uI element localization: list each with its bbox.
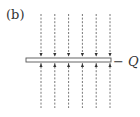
panel-label: (b): [6, 7, 24, 22]
field-diagram: (b) − Q: [0, 0, 140, 117]
arrow-down-icon: [81, 53, 84, 57]
arrow-down-icon: [108, 53, 111, 57]
charge-label: − Q: [113, 54, 139, 69]
arrow-up-icon: [53, 64, 56, 68]
arrow-down-icon: [67, 53, 70, 57]
arrow-up-icon: [39, 64, 42, 68]
arrow-up-icon: [81, 64, 84, 68]
arrow-up-icon: [67, 64, 70, 68]
arrow-down-icon: [53, 53, 56, 57]
charged-plate: [26, 58, 111, 62]
arrow-down-icon: [39, 53, 42, 57]
arrow-up-icon: [108, 64, 111, 68]
arrow-down-icon: [95, 53, 98, 57]
arrow-up-icon: [95, 64, 98, 68]
